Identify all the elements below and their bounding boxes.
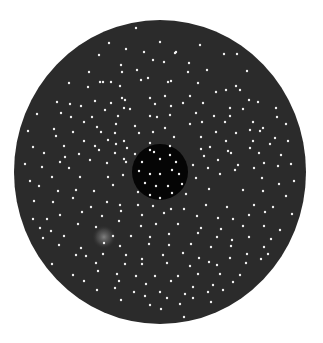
dot: [192, 297, 194, 299]
dot: [32, 146, 34, 148]
dot: [189, 265, 191, 267]
dot: [213, 115, 215, 117]
dot: [225, 89, 227, 91]
dot: [140, 225, 142, 227]
dot: [274, 137, 276, 139]
dot: [290, 163, 292, 165]
dot: [159, 291, 161, 293]
dot: [242, 108, 244, 110]
dot: [107, 176, 109, 178]
dot: [87, 86, 89, 88]
dot: [216, 264, 218, 266]
dot: [33, 200, 35, 202]
dot: [107, 139, 109, 141]
dot: [258, 152, 260, 154]
dot: [125, 161, 127, 163]
dot: [200, 136, 202, 138]
dot: [166, 262, 168, 264]
dot: [219, 273, 221, 275]
dot: [246, 70, 248, 72]
dot: [94, 145, 96, 147]
dot: [198, 257, 200, 259]
dot: [112, 184, 114, 186]
dot: [222, 289, 224, 291]
dot: [206, 69, 208, 71]
dot: [197, 273, 199, 275]
dot: [32, 218, 34, 220]
dot: [160, 308, 162, 310]
dot: [58, 244, 60, 246]
dot: [36, 113, 38, 115]
dot: [207, 167, 209, 169]
dot: [154, 275, 156, 277]
dot: [212, 284, 214, 286]
dot: [94, 100, 96, 102]
dot: [199, 44, 201, 46]
dot: [272, 206, 274, 208]
dot: [167, 81, 169, 83]
dot: [170, 208, 172, 210]
dot: [149, 142, 151, 144]
dot: [270, 238, 272, 240]
dot: [27, 130, 29, 132]
dot: [83, 140, 85, 142]
dot: [52, 201, 54, 203]
dot: [178, 173, 180, 175]
dot: [96, 289, 98, 291]
dot: [149, 194, 151, 196]
dot: [259, 130, 261, 132]
dot: [100, 131, 102, 133]
dot: [114, 152, 116, 154]
dot: [177, 223, 179, 225]
dot: [239, 274, 241, 276]
dot: [171, 192, 173, 194]
dot: [141, 258, 143, 260]
dot: [98, 54, 100, 56]
dot: [102, 253, 104, 255]
dot: [70, 116, 72, 118]
dot: [57, 190, 59, 192]
dot: [215, 91, 217, 93]
dot: [97, 270, 99, 272]
dot: [63, 145, 65, 147]
dot: [264, 211, 266, 213]
dot: [80, 105, 82, 107]
dot: [278, 183, 280, 185]
dot: [110, 102, 112, 104]
dot: [226, 206, 228, 208]
dot: [140, 79, 142, 81]
dot: [217, 217, 219, 219]
dot: [125, 48, 127, 50]
dot: [153, 151, 155, 153]
dot: [115, 143, 117, 145]
dot: [195, 112, 197, 114]
dot: [99, 81, 101, 83]
dot: [88, 71, 90, 73]
dot: [43, 152, 45, 154]
dot: [252, 140, 254, 142]
dot: [275, 107, 277, 109]
dot: [287, 140, 289, 142]
dot: [123, 158, 125, 160]
dot: [77, 223, 79, 225]
dot: [190, 243, 192, 245]
dot: [166, 297, 168, 299]
dot: [102, 81, 104, 83]
dot: [114, 287, 116, 289]
dot: [149, 149, 151, 151]
dot: [149, 304, 151, 306]
dot: [219, 173, 221, 175]
dot: [135, 275, 137, 277]
dot: [197, 82, 199, 84]
dot: [69, 103, 71, 105]
dot: [280, 154, 282, 156]
dot: [196, 215, 198, 217]
dot: [126, 147, 128, 149]
dot: [184, 293, 186, 295]
dot: [95, 262, 97, 264]
dot: [246, 253, 248, 255]
dot: [116, 273, 118, 275]
dot: [267, 253, 269, 255]
dot: [56, 101, 58, 103]
dot: [154, 103, 156, 105]
